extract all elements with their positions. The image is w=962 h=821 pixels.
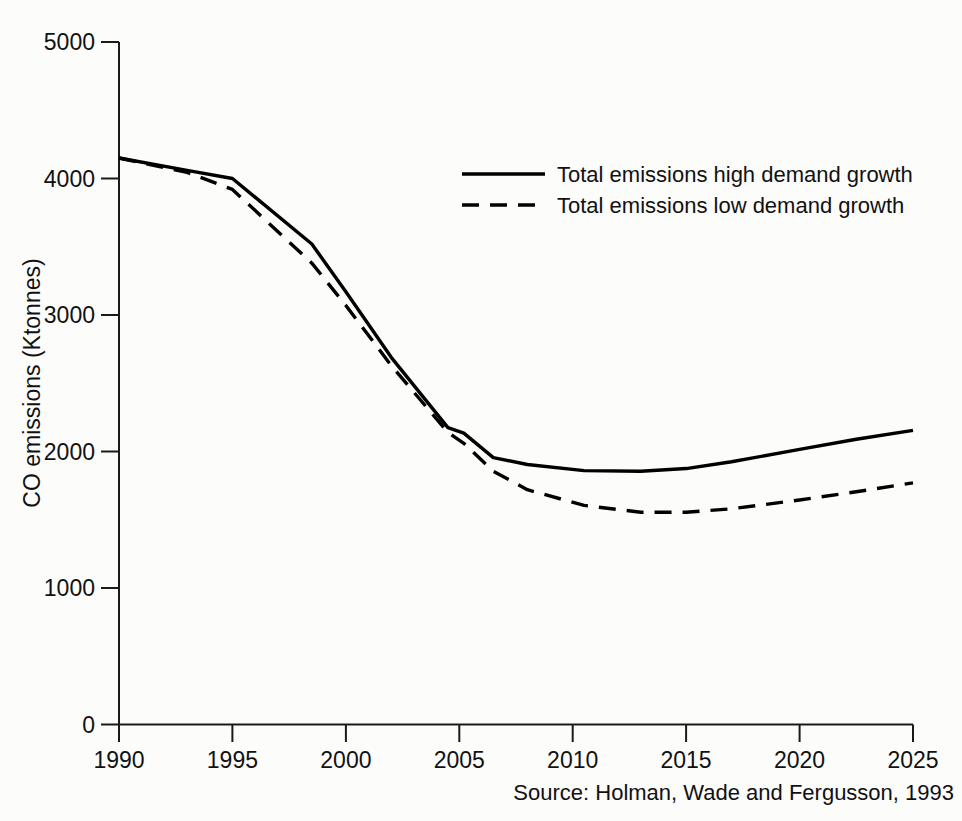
x-tick-label-2005: 2005 [434,747,485,773]
y-axis-ticks [101,42,119,725]
y-axis-title: CO emissions (Ktonnes) [19,258,45,507]
x-axis-tick-labels: 1990 1995 2000 2005 2010 2015 2020 2025 [93,747,938,773]
x-tick-label-2000: 2000 [320,747,371,773]
x-axis-ticks [119,725,913,743]
x-tick-label-1990: 1990 [93,747,144,773]
chart-page: 5000 4000 3000 2000 1000 0 1990 1995 200… [0,0,962,821]
x-tick-label-2025: 2025 [887,747,938,773]
y-tick-label-4000: 4000 [44,166,95,192]
legend-label-high-demand: Total emissions high demand growth [557,162,913,187]
legend-label-low-demand: Total emissions low demand growth [557,193,904,218]
y-tick-label-0: 0 [82,712,95,738]
source-note: Source: Holman, Wade and Fergusson, 1993 [513,780,954,805]
x-tick-label-2020: 2020 [774,747,825,773]
y-tick-label-3000: 3000 [44,302,95,328]
emissions-line-chart: 5000 4000 3000 2000 1000 0 1990 1995 200… [0,0,962,821]
x-tick-label-2010: 2010 [547,747,598,773]
y-tick-label-2000: 2000 [44,439,95,465]
chart-axes [119,42,913,725]
x-tick-label-2015: 2015 [661,747,712,773]
y-axis-tick-labels: 5000 4000 3000 2000 1000 0 [44,29,95,738]
y-tick-label-1000: 1000 [44,575,95,601]
x-tick-label-1995: 1995 [207,747,258,773]
chart-legend: Total emissions high demand growth Total… [462,162,913,218]
y-tick-label-5000: 5000 [44,29,95,55]
